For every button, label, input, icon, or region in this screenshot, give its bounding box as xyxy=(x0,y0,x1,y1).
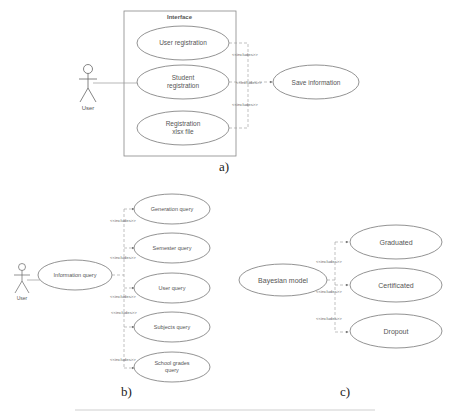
diagram-a: Interface User User registration Student… xyxy=(79,11,359,174)
includes-label: <<includes>> xyxy=(110,357,136,362)
includes-label: <<includes>> xyxy=(110,218,136,223)
use-case-label: query xyxy=(165,367,179,373)
use-case-label: Save information xyxy=(292,79,341,86)
includes-label: <<includes>> xyxy=(316,289,342,294)
use-case-label: School grades xyxy=(154,360,189,366)
use-case-label: registration xyxy=(167,82,200,90)
use-case-label: Generation query xyxy=(151,206,194,212)
use-case-label: Certificated xyxy=(378,282,414,289)
includes-label: <<includes>> xyxy=(232,52,258,57)
use-case-label: xlsx file xyxy=(172,128,194,135)
includes-label: <<includes>> xyxy=(316,259,342,264)
use-case-label: Graduated xyxy=(379,239,412,246)
diagram-c: Bayesian model <<includes>> <<includes>>… xyxy=(239,225,442,399)
includes-label: <<includes>> xyxy=(232,102,258,107)
use-case-label: User query xyxy=(159,285,186,291)
use-case-label: Semester query xyxy=(153,245,192,251)
use-case-label: Subjects query xyxy=(154,324,191,330)
use-case-label: Student xyxy=(172,74,195,81)
use-case-label: Information query xyxy=(54,272,97,278)
actor-user-icon xyxy=(14,264,30,294)
use-case-label: Registration xyxy=(166,120,201,128)
includes-label: <<includes>> xyxy=(110,294,136,299)
use-case-label: Bayesian model xyxy=(258,277,308,285)
caption-c: c) xyxy=(340,384,350,399)
use-case-label: User registration xyxy=(159,39,207,47)
caption-a: a) xyxy=(219,159,229,174)
boundary-title: Interface xyxy=(167,14,193,20)
caption-b: b) xyxy=(121,384,132,399)
includes-label: <<includes>> xyxy=(316,316,342,321)
diagram-b: User Information query <<includes>> <<in… xyxy=(14,194,210,399)
includes-label: <<includes>> xyxy=(111,310,137,315)
use-case-diagrams: Interface User User registration Student… xyxy=(0,0,457,411)
actor-label: User xyxy=(17,295,28,301)
includes-label: <<includes>> xyxy=(110,255,136,260)
includes-label: <<includes>> xyxy=(236,80,262,85)
actor-label: User xyxy=(82,105,95,111)
use-case-label: Dropout xyxy=(384,328,409,336)
